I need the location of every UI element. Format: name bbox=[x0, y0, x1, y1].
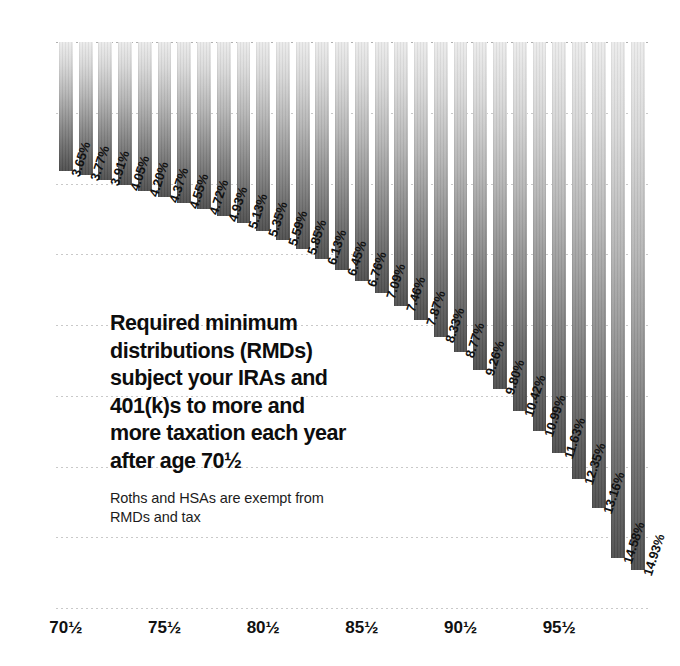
gridline bbox=[56, 537, 648, 538]
bar bbox=[473, 42, 487, 370]
bar-texture bbox=[552, 42, 566, 453]
bar bbox=[631, 42, 645, 570]
bar-texture bbox=[592, 42, 606, 508]
x-axis-tick-label: 75½ bbox=[148, 618, 181, 638]
bar-texture bbox=[59, 42, 73, 171]
bar-texture bbox=[631, 42, 645, 570]
bar-texture bbox=[473, 42, 487, 370]
bar-texture bbox=[572, 42, 586, 479]
x-axis-tick-label: 90½ bbox=[444, 618, 477, 638]
x-axis-tick-label: 85½ bbox=[345, 618, 378, 638]
bar bbox=[59, 42, 73, 171]
rmd-chart: 0%2%4%6%8%10%12%14%16%3.65%3.77%3.91%4.0… bbox=[0, 0, 680, 666]
x-axis-tick-label: 95½ bbox=[543, 618, 576, 638]
bar bbox=[552, 42, 566, 453]
bar-texture bbox=[513, 42, 527, 411]
annotation-headline: Required minimum distributions (RMDs) su… bbox=[110, 310, 355, 475]
x-axis-tick-label: 70½ bbox=[49, 618, 82, 638]
bar bbox=[592, 42, 606, 508]
annotation-block: Required minimum distributions (RMDs) su… bbox=[110, 310, 355, 528]
bar bbox=[493, 42, 507, 389]
bar bbox=[572, 42, 586, 479]
bar bbox=[513, 42, 527, 411]
gridline bbox=[56, 608, 648, 609]
x-axis-tick-label: 80½ bbox=[247, 618, 280, 638]
bar-texture bbox=[493, 42, 507, 389]
annotation-subtext: Roths and HSAs are exempt from RMDs and … bbox=[110, 489, 355, 528]
